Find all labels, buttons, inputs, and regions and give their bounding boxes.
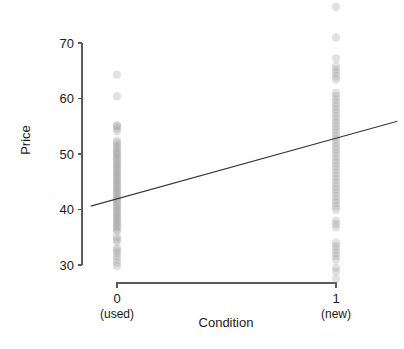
data-point [113, 70, 121, 78]
data-point [332, 255, 340, 263]
data-points-layer [113, 3, 340, 283]
y-axis: 3040506070 [60, 36, 82, 273]
y-tick-label: 70 [60, 36, 74, 51]
x-tick-label: 1 [332, 291, 339, 306]
scatter-plot-figure: 3040506070 0(used)1(new) Price Condition [0, 0, 404, 349]
x-axis-title: Condition [199, 315, 254, 330]
y-axis-tick-labels: 3040506070 [60, 36, 74, 273]
data-point [332, 205, 340, 213]
y-tick-label: 60 [60, 91, 74, 106]
data-point [332, 3, 340, 11]
data-point [332, 75, 340, 83]
data-point [332, 275, 340, 283]
regression-fit-line [91, 121, 398, 206]
x-tick-label: 0 [113, 291, 120, 306]
x-axis-spine [117, 283, 336, 288]
data-point [332, 267, 340, 275]
x-tick-sublabel: (used) [100, 307, 134, 321]
data-point [113, 262, 121, 270]
y-tick-label: 30 [60, 258, 74, 273]
y-axis-title: Price [18, 125, 33, 155]
data-point [332, 54, 340, 62]
y-tick-label: 40 [60, 202, 74, 217]
chart-canvas: 3040506070 0(used)1(new) Price Condition [0, 0, 404, 349]
data-point [113, 127, 121, 135]
x-tick-sublabel: (new) [321, 307, 351, 321]
data-point [113, 92, 121, 100]
y-axis-ticks [78, 43, 82, 265]
data-point [332, 33, 340, 41]
y-tick-label: 50 [60, 147, 74, 162]
data-point [332, 223, 340, 231]
